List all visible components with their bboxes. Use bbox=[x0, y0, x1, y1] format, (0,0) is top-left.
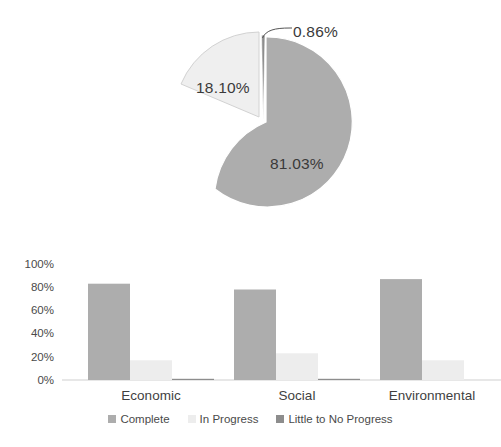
legend-label-complete: Complete bbox=[120, 413, 169, 425]
pie-chart-svg bbox=[0, 0, 501, 232]
bar-economic-in-progress bbox=[130, 360, 172, 380]
pie-label-little-to-no-progress: 0.86% bbox=[293, 23, 338, 41]
x-category-social: Social bbox=[227, 388, 367, 403]
legend-swatch-in-progress-icon bbox=[188, 415, 196, 423]
y-tick-100: 100% bbox=[6, 258, 54, 270]
bar-social-complete bbox=[234, 290, 276, 381]
legend-item-complete[interactable]: Complete bbox=[108, 413, 169, 425]
pie-label-complete: 81.03% bbox=[270, 155, 324, 173]
bar-economic-little-to-no-progress bbox=[172, 379, 214, 380]
legend-item-in-progress[interactable]: In Progress bbox=[188, 413, 259, 425]
y-tick-20: 20% bbox=[6, 351, 54, 363]
y-tick-40: 40% bbox=[6, 327, 54, 339]
pie-slice-in-progress bbox=[181, 32, 259, 117]
pie-chart: 81.03% 18.10% 0.86% bbox=[0, 0, 501, 232]
bar-social-little-to-no-progress bbox=[318, 379, 360, 380]
figure-container: 81.03% 18.10% 0.86% 100% 80% 60% 40% 20%… bbox=[0, 0, 501, 447]
legend-swatch-little-to-no-progress-icon bbox=[276, 415, 284, 423]
legend-swatch-complete-icon bbox=[108, 415, 116, 423]
y-tick-80: 80% bbox=[6, 281, 54, 293]
pie-label-in-progress: 18.10% bbox=[196, 79, 250, 97]
y-tick-0: 0% bbox=[6, 374, 54, 386]
bar-social-in-progress bbox=[276, 353, 318, 380]
pie-slice-little-to-no-progress bbox=[262, 35, 265, 120]
x-category-environmental: Environmental bbox=[362, 388, 501, 403]
legend-label-in-progress: In Progress bbox=[200, 413, 259, 425]
legend-item-little-to-no-progress[interactable]: Little to No Progress bbox=[276, 413, 392, 425]
x-category-economic: Economic bbox=[81, 388, 221, 403]
bar-environmental-complete bbox=[380, 279, 422, 380]
y-tick-60: 60% bbox=[6, 304, 54, 316]
legend-label-little-to-no-progress: Little to No Progress bbox=[288, 413, 392, 425]
bar-chart: 100% 80% 60% 40% 20% 0% Economic Social … bbox=[0, 250, 501, 447]
chart-legend: Complete In Progress Little to No Progre… bbox=[0, 413, 501, 425]
bar-environmental-in-progress bbox=[422, 360, 464, 380]
bar-economic-complete bbox=[88, 284, 130, 380]
